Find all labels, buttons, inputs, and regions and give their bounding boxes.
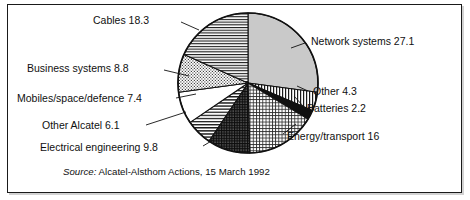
pie-label-other-text: Other 4.3 xyxy=(313,85,357,97)
pie-label-electrical-engineering: Electrical engineering 9.8 xyxy=(40,141,158,153)
pie-slice-network-systems xyxy=(248,13,318,92)
pie-label-other-alcatel-text: Other Alcatel 6.1 xyxy=(42,119,120,131)
pie-label-mobiles-space-defence-text: Mobiles/space/defence 7.4 xyxy=(17,92,142,104)
pie-label-network-systems: Network systems 27.1 xyxy=(311,35,414,47)
pie-label-business-systems-text: Business systems 8.8 xyxy=(27,62,129,74)
pie-leader-line xyxy=(181,22,199,30)
source-value: Alcatel-Alsthom Actions, 15 March 1992 xyxy=(99,166,270,177)
pie-label-batteries-text: Batteries 2.2 xyxy=(307,102,366,114)
pie-label-other: Other 4.3 xyxy=(313,85,357,97)
pie-label-cables-text: Cables 18.3 xyxy=(93,14,149,26)
figure-container: Cables 18.3 Business systems 8.8 Mobiles… xyxy=(0,0,470,200)
pie-label-batteries: Batteries 2.2 xyxy=(307,102,366,114)
pie-label-energy-transport: Energy/transport 16 xyxy=(287,130,379,142)
pie-label-cables: Cables 18.3 xyxy=(93,14,149,26)
pie-label-electrical-engineering-text: Electrical engineering 9.8 xyxy=(40,141,158,153)
pie-label-energy-transport-text: Energy/transport 16 xyxy=(287,130,379,142)
pie-label-network-systems-text: Network systems 27.1 xyxy=(311,35,414,47)
pie-label-business-systems: Business systems 8.8 xyxy=(27,62,129,74)
source-caption: Source: Alcatel-Alsthom Actions, 15 Marc… xyxy=(63,166,270,177)
pie-leader-line xyxy=(146,112,186,125)
pie-label-other-alcatel: Other Alcatel 6.1 xyxy=(42,119,120,131)
pie-chart-plot-area: Cables 18.3 Business systems 8.8 Mobiles… xyxy=(0,0,470,200)
source-label: Source: xyxy=(63,166,96,177)
pie-label-mobiles-space-defence: Mobiles/space/defence 7.4 xyxy=(17,92,142,104)
